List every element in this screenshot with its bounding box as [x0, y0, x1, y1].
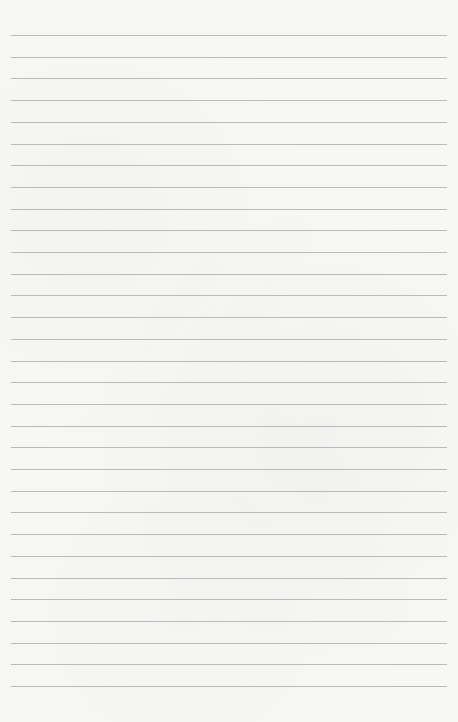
ruled-line — [11, 122, 447, 123]
ruled-line — [11, 426, 447, 427]
ruled-line — [11, 599, 447, 600]
ruled-line — [11, 57, 447, 58]
ruled-line — [11, 78, 447, 79]
ruled-line — [11, 209, 447, 210]
ruled-line — [11, 469, 447, 470]
ruled-line — [11, 274, 447, 275]
ruled-line — [11, 252, 447, 253]
ruled-line — [11, 165, 447, 166]
ruled-line — [11, 491, 447, 492]
ruled-line — [11, 317, 447, 318]
ruled-line — [11, 187, 447, 188]
ruled-line — [11, 295, 447, 296]
ruled-line — [11, 144, 447, 145]
ruled-line — [11, 35, 447, 36]
ruled-line — [11, 404, 447, 405]
ruled-line — [11, 447, 447, 448]
ruled-line — [11, 361, 447, 362]
ruled-line — [11, 578, 447, 579]
ruled-line — [11, 512, 447, 513]
ruled-line — [11, 382, 447, 383]
ruled-line — [11, 100, 447, 101]
ruled-line — [11, 686, 447, 687]
ruled-line — [11, 534, 447, 535]
ruled-line — [11, 339, 447, 340]
ruled-line — [11, 643, 447, 644]
ruled-line — [11, 664, 447, 665]
ruled-line — [11, 621, 447, 622]
ruled-line — [11, 230, 447, 231]
ruled-line — [11, 556, 447, 557]
lined-paper-sheet — [0, 0, 458, 722]
